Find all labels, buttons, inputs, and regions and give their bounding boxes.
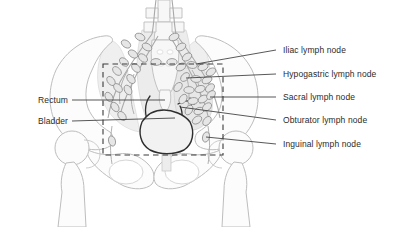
label-sacral-lymph-node: Sacral lymph node <box>283 93 355 102</box>
label-rectum: Rectum <box>0 96 68 105</box>
figure-pelvic-lymph-nodes: Iliac lymph node Hypogastric lymph node … <box>0 0 409 227</box>
label-inguinal-lymph-node: Inguinal lymph node <box>283 140 361 149</box>
label-iliac-lymph-node: Iliac lymph node <box>283 46 346 55</box>
label-obturator-lymph-node: Obturator lymph node <box>283 116 367 125</box>
label-bladder: Bladder <box>0 117 68 126</box>
label-hypogastric-lymph-node: Hypogastric lymph node <box>283 70 376 79</box>
anatomy-illustration <box>0 0 409 227</box>
